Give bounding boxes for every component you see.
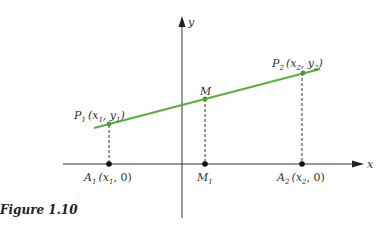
point-p1	[107, 122, 112, 127]
x-axis-arrow-icon	[352, 161, 364, 168]
label-p1: P1(x1, y1)	[73, 109, 125, 124]
point-a1	[106, 161, 112, 167]
point-a2	[299, 161, 305, 167]
label-m: M	[199, 85, 212, 98]
point-p2	[301, 71, 306, 76]
point-m1	[202, 161, 208, 167]
coordinate-diagram: y x P1(x1, y1) M P2(x2, y2) A1(x1, 0) M1…	[0, 0, 391, 230]
figure-caption: Figure 1.10	[0, 203, 78, 217]
label-m1: M1	[196, 171, 213, 186]
x-axis-label: x	[367, 158, 374, 171]
label-a1: A1(x1, 0)	[83, 171, 132, 186]
label-a2: A2(x2, 0)	[276, 171, 325, 186]
y-axis-label: y	[187, 16, 195, 29]
label-p2: P2(x2, y2)	[271, 57, 323, 72]
y-axis-arrow-icon	[179, 16, 186, 27]
